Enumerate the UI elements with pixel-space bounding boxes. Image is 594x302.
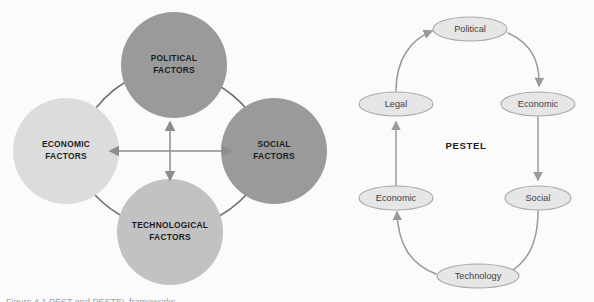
connector-technology-to-economic <box>397 212 436 274</box>
pestel-center-label: PESTEL <box>446 140 487 151</box>
pest-diagram: POLITICAL FACTORS ECONOMIC FACTORS SOCIA… <box>0 0 300 288</box>
node-label-social: Social <box>525 193 550 203</box>
connector-political-to-economic <box>508 33 539 86</box>
label-political-line1: POLITICAL <box>151 53 197 63</box>
label-social-line1: SOCIAL <box>257 139 290 149</box>
node-label-legal: Legal <box>385 99 407 109</box>
label-social-line2: FACTORS <box>253 151 295 161</box>
label-technological-line2: FACTORS <box>149 232 191 242</box>
figure-root: POLITICAL FACTORS ECONOMIC FACTORS SOCIA… <box>0 0 594 302</box>
pestel-connectors <box>396 31 539 275</box>
connector-social-to-technology <box>503 211 538 275</box>
label-technological-line1: TECHNOLOGICAL <box>132 220 208 230</box>
node-label-economic-left: Economic <box>376 193 417 203</box>
node-label-economic-right: Economic <box>518 99 559 109</box>
node-label-technology: Technology <box>455 271 502 281</box>
label-economic-line1: ECONOMIC <box>42 139 90 149</box>
pestel-nodes <box>359 17 575 288</box>
pest-center-cross <box>110 122 231 180</box>
connector-legal-to-political <box>396 31 432 91</box>
figure-caption: Figure 4.1 PEST and PESTEL frameworks <box>6 291 176 302</box>
node-label-political: Political <box>454 24 486 34</box>
label-economic-line2: FACTORS <box>45 151 87 161</box>
label-political-line2: FACTORS <box>153 65 195 75</box>
pestel-diagram: Political Economic Social Technology Eco… <box>300 0 594 288</box>
